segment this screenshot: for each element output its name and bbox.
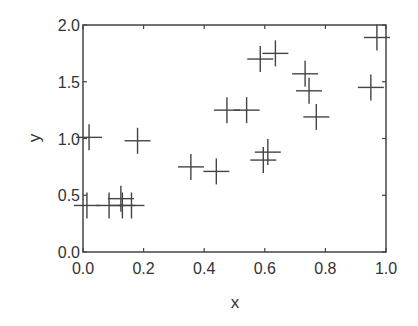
y-tick-label: 1.0 (58, 131, 80, 148)
x-tick-label: 0.2 (132, 260, 154, 277)
plus-marker (292, 61, 318, 87)
plus-marker (234, 97, 260, 123)
x-tick-label: 1.0 (375, 260, 397, 277)
y-tick-label: 0.0 (58, 244, 80, 261)
plus-marker (108, 186, 134, 212)
y-axis-label: y (25, 133, 44, 142)
axis-ticks (83, 25, 386, 252)
plus-marker (255, 139, 281, 165)
x-axis-label: x (231, 293, 240, 312)
plus-marker (125, 128, 151, 154)
y-tick-label: 2.0 (58, 17, 80, 34)
y-tick-label: 0.5 (58, 187, 80, 204)
tick-labels: 0.00.20.40.60.81.00.00.51.01.52.0 (58, 17, 397, 277)
data-markers (74, 24, 390, 218)
scatter-chart: 0.00.20.40.60.81.00.00.51.01.52.0 x y (0, 0, 418, 326)
plot-frame (83, 25, 386, 252)
plus-marker (178, 154, 204, 180)
x-tick-label: 0.8 (314, 260, 336, 277)
plus-marker (358, 74, 384, 100)
x-tick-label: 0.0 (72, 260, 94, 277)
plus-marker (203, 158, 229, 184)
plus-marker (303, 104, 329, 130)
y-tick-label: 1.5 (58, 74, 80, 91)
plus-marker (250, 147, 276, 173)
plus-marker (262, 40, 288, 66)
plus-marker (296, 78, 322, 104)
plus-marker (247, 46, 273, 72)
x-tick-label: 0.4 (193, 260, 215, 277)
x-tick-label: 0.6 (254, 260, 276, 277)
